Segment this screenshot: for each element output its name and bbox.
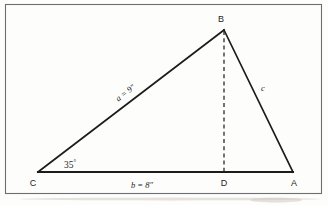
side-label-c: c bbox=[261, 83, 265, 93]
side-c-line bbox=[224, 30, 293, 172]
angle-value-c: 35 bbox=[64, 160, 74, 170]
diagram-frame bbox=[6, 5, 322, 194]
side-label-a: a = 9″ bbox=[113, 82, 137, 104]
vertex-label-a: A bbox=[291, 178, 297, 188]
print-smudge-baseline bbox=[20, 198, 320, 201]
degree-symbol-icon: ° bbox=[74, 158, 77, 165]
figure-container: B C D A a = 9″ b = 8″ c 35° bbox=[0, 0, 328, 205]
triangle-diagram: B C D A a = 9″ b = 8″ c 35° bbox=[0, 0, 328, 205]
vertex-label-d: D bbox=[221, 178, 228, 188]
side-label-b: b = 8″ bbox=[131, 180, 153, 190]
vertex-label-b: B bbox=[218, 14, 224, 24]
angle-label-c: 35° bbox=[64, 158, 77, 170]
vertex-label-c: C bbox=[30, 178, 37, 188]
side-a-line bbox=[38, 30, 224, 172]
